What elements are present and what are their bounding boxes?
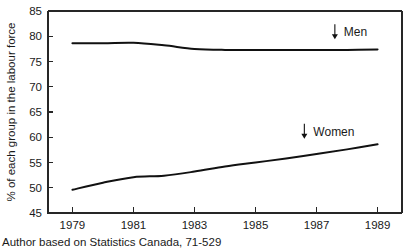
y-tick-label: 45: [29, 207, 42, 219]
y-tick-label: 70: [29, 81, 42, 93]
annotation-label-men: Men: [344, 25, 367, 39]
annotation-label-women: Women: [313, 125, 354, 139]
series-line-men: [72, 43, 377, 50]
y-tick-label: 80: [29, 30, 42, 42]
down-arrow-head-icon: [332, 34, 338, 39]
x-tick-label: 1989: [365, 219, 391, 231]
y-axis-ticks: 455055606570758085: [29, 5, 53, 219]
x-tick-label: 1981: [121, 219, 147, 231]
x-tick-label: 1979: [60, 219, 86, 231]
y-tick-label: 75: [29, 56, 42, 68]
series-group: [72, 43, 377, 190]
x-tick-label: 1983: [182, 219, 208, 231]
x-tick-label: 1987: [304, 219, 330, 231]
y-tick-label: 55: [29, 157, 42, 169]
y-tick-label: 65: [29, 106, 42, 118]
y-tick-label: 85: [29, 5, 42, 17]
annotation-women: Women: [301, 124, 354, 139]
x-tick-label: 1985: [243, 219, 269, 231]
y-tick-label: 50: [29, 182, 42, 194]
series-line-women: [72, 144, 377, 189]
line-chart: 455055606570758085 197919811983198519871…: [0, 0, 414, 252]
annotation-men: Men: [332, 24, 367, 39]
source-note: Author based on Statistics Canada, 71-52…: [2, 236, 221, 248]
y-axis-title: % of each group in the labour force: [5, 22, 17, 201]
down-arrow-head-icon: [301, 134, 307, 139]
y-tick-label: 60: [29, 131, 42, 143]
figure-container: 455055606570758085 197919811983198519871…: [0, 0, 414, 252]
x-axis-ticks: 197919811983198519871989: [60, 207, 391, 231]
annotations-group: MenWomen: [301, 24, 367, 138]
